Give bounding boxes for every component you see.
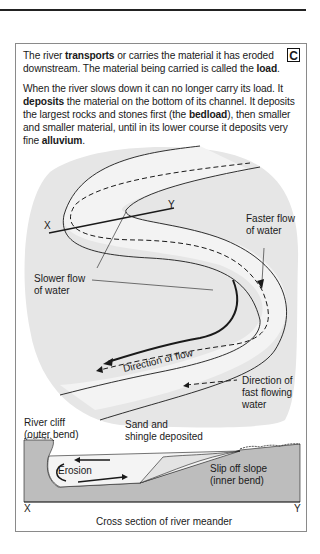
- slower-flow-label-2: of water: [34, 285, 70, 296]
- faster-flow-label-1: Faster flow: [246, 213, 296, 224]
- slower-flow-label-1: Slower flow: [34, 273, 86, 284]
- sand-label-2: shingle deposited: [125, 431, 203, 442]
- faster-flow-label-2: of water: [246, 225, 282, 236]
- slip-off-label-2: (inner bend): [210, 475, 264, 486]
- river-cliff-label-1: River cliff: [24, 417, 65, 428]
- slip-off-label-1: Slip off slope: [210, 463, 268, 474]
- cross-label-x: X: [24, 503, 31, 514]
- cross-label-y: Y: [294, 503, 301, 514]
- cross-section-caption: Cross section of river meander: [96, 516, 233, 527]
- river-cliff-label-2: (outer bend): [24, 429, 78, 440]
- river-meander-diagram: X Y Faster flow of water Slower flow of …: [0, 0, 320, 554]
- sand-label-1: Sand and: [125, 419, 168, 430]
- legend-label-1: Direction of: [242, 375, 293, 386]
- map-label-y: Y: [168, 199, 175, 210]
- erosion-label: Erosion: [58, 465, 92, 476]
- legend-label-3: water: [241, 399, 267, 410]
- map-label-x: X: [44, 220, 51, 231]
- legend-label-2: fast flowing: [242, 387, 292, 398]
